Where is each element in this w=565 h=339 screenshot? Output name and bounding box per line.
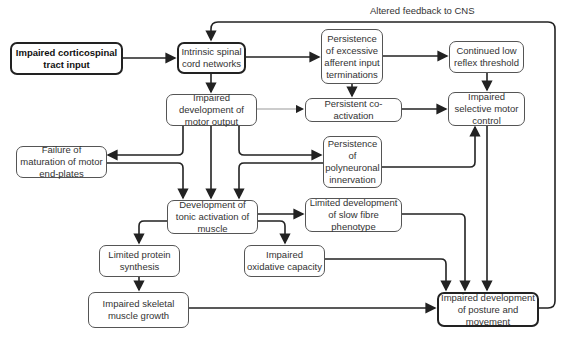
node-oxidative-capacity: Impaired oxidative capacity xyxy=(244,245,325,277)
node-spinal-networks: Intrinsic spinal cord networks xyxy=(177,42,246,74)
node-posture-movement: Impaired development of posture and move… xyxy=(437,292,539,327)
node-polyneuronal: Persistence of polyneuronal innervation xyxy=(323,136,382,188)
node-protein-synthesis: Limited protein synthesis xyxy=(99,245,180,277)
node-selective-control: Impaired selective motor control xyxy=(448,92,525,126)
feedback-label: Altered feedback to CNS xyxy=(370,5,475,16)
node-muscle-growth: Impaired skeletal muscle growth xyxy=(88,292,189,328)
node-afferent-persistence: Persistence of excessive afferent input … xyxy=(321,29,383,84)
node-slow-fibre: Limited development of slow fibre phenot… xyxy=(305,198,402,232)
node-motor-output: Impaired development of motor output xyxy=(166,94,257,126)
node-end-plates: Failure of maturation of motor end-plate… xyxy=(16,146,107,178)
node-low-reflex: Continued low reflex threshold xyxy=(449,41,524,73)
node-tonic-activation: Development of tonic activation of muscl… xyxy=(167,200,258,234)
node-corticospinal: Impaired corticospinal tract input xyxy=(10,42,123,75)
node-coactivation: Persistent co-activation xyxy=(305,98,402,122)
